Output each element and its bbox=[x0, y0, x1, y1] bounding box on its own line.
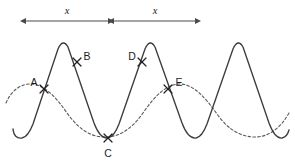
solid-wave-curve bbox=[13, 43, 289, 138]
point-marker-b: B bbox=[73, 50, 91, 66]
point-marker-a: A bbox=[30, 76, 48, 93]
dimension-arrows-group: x x bbox=[26, 5, 196, 21]
wave-diagram-canvas: x x A B C bbox=[0, 0, 295, 163]
wave-diagram: x x A B C bbox=[0, 0, 295, 163]
left-dimension-label: x bbox=[64, 5, 70, 16]
point-markers-group: A B C D E bbox=[30, 50, 182, 159]
right-dimension-label: x bbox=[152, 5, 158, 16]
point-label-e: E bbox=[175, 76, 182, 88]
point-label-a: A bbox=[30, 76, 37, 88]
point-label-b: B bbox=[83, 50, 90, 62]
point-label-c: C bbox=[104, 147, 112, 159]
right-dimension-arrow: x bbox=[114, 5, 196, 21]
dashed-wave-curve bbox=[6, 84, 289, 137]
left-dimension-arrow: x bbox=[26, 5, 109, 21]
point-label-d: D bbox=[128, 50, 136, 62]
